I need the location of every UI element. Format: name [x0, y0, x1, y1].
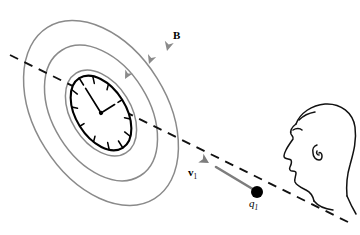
face-profile-outline: [284, 124, 314, 201]
label-magnetic-field: B: [173, 30, 180, 41]
figure-canvas: B v1 q1: [0, 0, 360, 235]
head-outline: [296, 104, 356, 196]
charge-subscript: 1: [255, 204, 259, 212]
shoulder-line: [347, 196, 356, 214]
field-line-arrowheads: [121, 41, 173, 81]
clock-face: [58, 65, 144, 161]
observer-head-profile: [284, 104, 356, 214]
label-velocity: v1: [188, 167, 197, 181]
ear-outline: [313, 145, 322, 160]
label-charge: q1: [249, 198, 258, 212]
neck-line: [314, 201, 333, 210]
velocity-subscript: 1: [194, 173, 198, 181]
brow-line: [293, 129, 302, 131]
field-arrow-outer: [163, 41, 174, 52]
field-arrow-inner: [121, 70, 132, 81]
